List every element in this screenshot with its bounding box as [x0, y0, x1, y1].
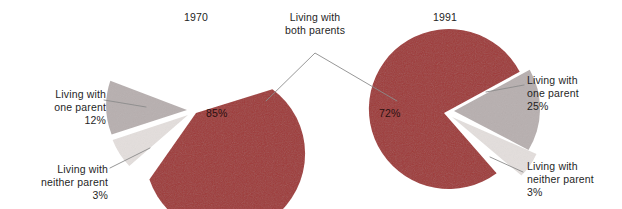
year-label-1991: 1991: [414, 11, 476, 24]
callout-1970-neither-parent: Living with neither parent 3%: [8, 163, 108, 202]
callout-both-parents: Living with both parents: [262, 11, 368, 37]
value-label-1991-both-parents: 72%: [379, 107, 401, 119]
year-label-1970: 1970: [165, 11, 227, 24]
callout-1991-one-parent: Living with one parent 25%: [527, 74, 622, 113]
callout-1970-one-parent: Living with one parent 12%: [10, 88, 106, 127]
value-label-1970-both-parents: 85%: [206, 107, 228, 119]
slice-1970-one-parent[interactable]: [106, 81, 187, 135]
callout-1991-neither-parent: Living with neither parent 3%: [527, 160, 622, 199]
pie-chart-figure: 1970 1991 Living with both parents Livin…: [0, 0, 622, 209]
pie-1970: [106, 81, 305, 209]
